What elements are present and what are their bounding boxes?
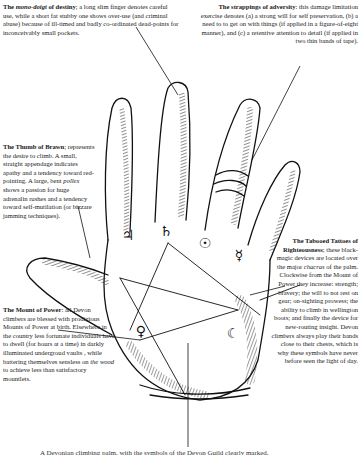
figure-caption: A Devonian climbing palm, with the symbo… — [40, 449, 340, 455]
annotation-strappings: The strappings of adversity: this damage… — [198, 3, 358, 46]
hand-illustration: ♃ ♄ ☉ ☿ ♀ ☾ — [0, 0, 362, 455]
annotation-thumb: The Thumb of Brawn; represents the desir… — [3, 143, 95, 220]
annotation-mono-doigt: The mono-doigt of destiny; a long slim f… — [3, 3, 179, 37]
venus-symbol: ♀ — [136, 323, 146, 339]
jupiter-symbol: ♃ — [122, 227, 135, 243]
saturn-symbol: ♄ — [160, 223, 173, 239]
moon-symbol: ☾ — [227, 325, 240, 341]
sun-symbol: ☉ — [199, 235, 212, 251]
mercury-symbol: ☿ — [235, 247, 244, 263]
annotation-mount: The Mount of Power: all Devon climbers a… — [3, 306, 115, 383]
annotation-tattoos: The Tabooed Tattoes of Righteousness; th… — [268, 237, 358, 366]
